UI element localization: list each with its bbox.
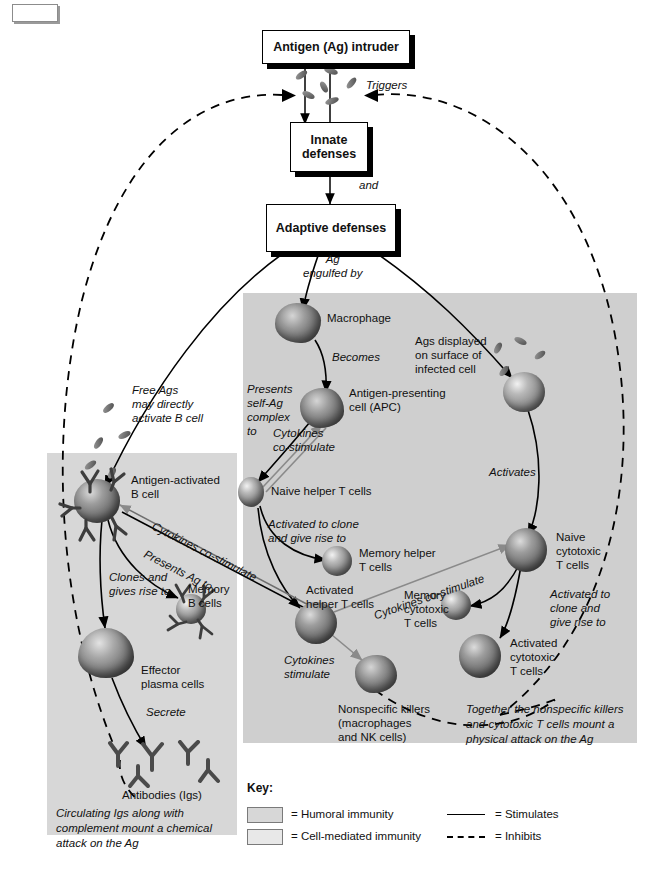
box-antigen-intruder-label: Antigen (Ag) intruder <box>273 40 399 54</box>
infected-cell <box>503 372 545 412</box>
box-adaptive-defenses-label: Adaptive defenses <box>276 221 386 235</box>
label-naive-helper-t-cells: Naive helper T cells <box>271 484 372 498</box>
naive-helper-t-cell <box>238 477 264 507</box>
nonspecific-killer-cell <box>355 655 397 693</box>
key-swatch-humoral <box>247 807 283 823</box>
label-activated-to-clone-helper: Activated to clone and give rise to <box>268 517 359 545</box>
label-triggers: Triggers <box>366 78 407 92</box>
box-adaptive-defenses[interactable]: Adaptive defenses <box>266 204 396 252</box>
label-ag-engulfed-by: Ag engulfed by <box>303 252 362 280</box>
key-swatch-cell-mediated <box>247 829 283 845</box>
label-antigen-activated-b-cell: Antigen-activated B cell <box>131 473 220 501</box>
key-line-stimulates <box>447 814 485 815</box>
label-becomes: Becomes <box>332 350 380 364</box>
label-clones-and-gives-rise-to: Clones and gives rise to <box>109 570 170 598</box>
summary-humoral: Circulating Igs along with complement mo… <box>56 806 234 851</box>
label-cytokines-stimulate: Cytokines stimulate <box>284 653 335 681</box>
label-macrophage: Macrophage <box>327 311 391 325</box>
key-label-stimulates: = Stimulates <box>495 808 559 820</box>
effector-plasma-cell <box>78 628 134 678</box>
memory-helper-t-cell <box>322 546 352 576</box>
label-infected-cell: Ags displayed on surface of infected cel… <box>415 334 487 376</box>
box-antigen-intruder[interactable]: Antigen (Ag) intruder <box>262 30 410 64</box>
label-memory-helper-t-cells: Memory helper T cells <box>359 546 436 574</box>
label-nonspecific-killers: Nonspecific killers (macrophages and NK … <box>338 702 430 744</box>
box-innate-defenses-label: Innate defenses <box>291 133 367 162</box>
key-legend: Key: = Humoral immunity = Cell-mediated … <box>247 781 647 856</box>
antigen-presenting-cell <box>300 388 344 428</box>
macrophage-cell <box>275 303 321 343</box>
key-label-inhibits: = Inhibits <box>495 830 541 842</box>
label-naive-cytotoxic-t-cells: Naive cytotoxic T cells <box>556 530 601 572</box>
label-activates: Activates <box>489 465 536 479</box>
key-dash-inhibits <box>447 836 485 838</box>
key-label-cell-mediated: = Cell-mediated immunity <box>291 830 421 842</box>
summary-cell-mediated: Together the nonspecific killers and cyt… <box>466 702 638 747</box>
key-title: Key: <box>247 781 273 795</box>
diagram-canvas: Antigen (Ag) intruder Innate defenses Ad… <box>0 0 670 888</box>
label-free-ags-may-activate-b-cell: Free Ags may directly activate B cell <box>132 383 203 425</box>
label-activated-cytotoxic-t-cells: Activated cytotoxic T cells <box>510 636 557 678</box>
label-memory-cytotoxic-t-cells: Memory cytotoxic T cells <box>404 588 449 630</box>
activated-cytotoxic-t-cell <box>459 634 501 678</box>
naive-cytotoxic-t-cell <box>505 528 547 572</box>
label-cytokines-costimulate-apc: Cytokines co-stimulate <box>273 426 335 454</box>
label-activated-to-clone-cytotoxic: Activated to clone and give rise to <box>550 587 610 629</box>
label-effector-plasma-cells: Effector plasma cells <box>141 663 204 691</box>
key-label-humoral: = Humoral immunity <box>291 808 394 820</box>
label-and: and <box>359 178 378 192</box>
label-memory-b-cells: Memory B cells <box>188 582 230 610</box>
box-innate-defenses[interactable]: Innate defenses <box>290 122 368 172</box>
label-secrete: Secrete <box>146 705 186 719</box>
label-antibodies: Antibodies (Igs) <box>122 788 202 802</box>
label-antigen-presenting-cell: Antigen-presenting cell (APC) <box>349 386 446 414</box>
label-activated-helper-t-cells: Activated helper T cells <box>306 583 374 611</box>
antibody-molecules <box>100 740 230 792</box>
